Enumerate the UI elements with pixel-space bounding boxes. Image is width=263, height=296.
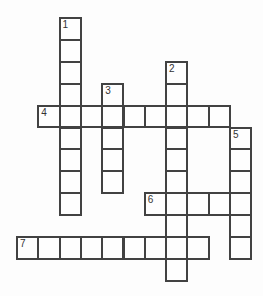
crossword-cell[interactable]: [165, 192, 188, 216]
crossword-cell[interactable]: [59, 61, 82, 85]
crossword-cell[interactable]: [229, 214, 252, 238]
crossword-cell[interactable]: [59, 39, 82, 63]
crossword-cell[interactable]: 6: [144, 192, 167, 216]
crossword-cell[interactable]: [59, 192, 82, 216]
clue-number: 2: [169, 63, 175, 74]
crossword-cell[interactable]: [229, 236, 252, 260]
crossword-cell[interactable]: 4: [37, 105, 60, 129]
crossword-cell[interactable]: 5: [229, 127, 252, 151]
crossword-cell[interactable]: [59, 170, 82, 194]
crossword-cell[interactable]: [101, 170, 124, 194]
crossword-cell[interactable]: [186, 192, 209, 216]
crossword-cell[interactable]: [165, 148, 188, 172]
crossword-cell[interactable]: [59, 236, 82, 260]
clue-number: 5: [233, 129, 239, 140]
clue-number: 4: [41, 107, 47, 118]
crossword-cell[interactable]: [80, 105, 103, 129]
crossword-cell[interactable]: 3: [101, 83, 124, 107]
crossword-grid: 1234567: [0, 0, 263, 296]
crossword-cell[interactable]: [165, 83, 188, 107]
crossword-cell[interactable]: [59, 127, 82, 151]
crossword-cell[interactable]: 1: [59, 17, 82, 41]
clue-number: 6: [148, 194, 154, 205]
crossword-cell[interactable]: [59, 105, 82, 129]
crossword-cell[interactable]: [101, 127, 124, 151]
crossword-cell[interactable]: [229, 170, 252, 194]
crossword-cell[interactable]: [37, 236, 60, 260]
crossword-cell[interactable]: [165, 170, 188, 194]
crossword-cell[interactable]: [165, 214, 188, 238]
crossword-cell[interactable]: [165, 236, 188, 260]
crossword-cell[interactable]: [208, 105, 231, 129]
crossword-cell[interactable]: [144, 236, 167, 260]
crossword-cell[interactable]: [59, 83, 82, 107]
crossword-cell[interactable]: [229, 148, 252, 172]
crossword-cell[interactable]: [101, 148, 124, 172]
crossword-cell[interactable]: [208, 192, 231, 216]
crossword-cell[interactable]: 7: [16, 236, 39, 260]
crossword-cell[interactable]: [101, 236, 124, 260]
crossword-cell[interactable]: [59, 148, 82, 172]
crossword-cell[interactable]: [229, 192, 252, 216]
crossword-cell[interactable]: [165, 258, 188, 282]
crossword-cell[interactable]: [165, 127, 188, 151]
clue-number: 1: [63, 19, 69, 30]
crossword-page: 1234567: [0, 0, 263, 296]
crossword-cell[interactable]: [144, 105, 167, 129]
crossword-cell[interactable]: [101, 105, 124, 129]
crossword-cell[interactable]: [165, 105, 188, 129]
crossword-cell[interactable]: [186, 236, 209, 260]
crossword-cell[interactable]: 2: [165, 61, 188, 85]
clue-number: 3: [105, 85, 111, 96]
crossword-cell[interactable]: [186, 105, 209, 129]
clue-number: 7: [20, 238, 26, 249]
crossword-cell[interactable]: [80, 236, 103, 260]
crossword-cell[interactable]: [123, 236, 146, 260]
crossword-cell[interactable]: [123, 105, 146, 129]
